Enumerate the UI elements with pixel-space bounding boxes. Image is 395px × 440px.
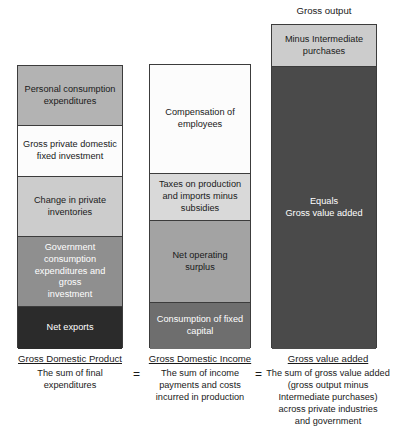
bar-segment: Change in privateinventories	[18, 177, 122, 237]
bar-segment: Net operatingsurplus	[150, 221, 250, 303]
bar-segment: Consumption of fixedcapital	[150, 303, 250, 349]
bar-segment-label: EqualsGross value added	[285, 196, 362, 220]
column-gross-domestic-product: Personal consumptionexpendituresGross pr…	[17, 65, 123, 348]
bar-segment-label: Consumption of fixedcapital	[157, 314, 243, 338]
bar-segment: Gross private domesticfixed investment	[18, 126, 122, 177]
caption-gross-domestic-income: Gross Domestic Income The sum of incomep…	[140, 353, 260, 404]
bar-segment-label: Taxes on productionand imports minussubs…	[159, 179, 241, 214]
bar-segment-label: Net operatingsurplus	[172, 250, 227, 274]
bar-segment: Net exports	[18, 307, 122, 349]
bar-segment: Taxes on productionand imports minussubs…	[150, 174, 250, 221]
bar-segment: EqualsGross value added	[272, 67, 376, 349]
caption-gross-value-added: Gross value added The sum of gross value…	[262, 353, 394, 428]
column-gross-domestic-income: Compensation ofemployeesTaxes on product…	[149, 64, 251, 348]
bar-segment-label: Governmentconsumptionexpenditures and gr…	[23, 242, 117, 301]
caption-body: The sum of incomepayments and costsincur…	[140, 368, 260, 404]
column-gross-value-added: Minus IntermediatepurchasesEqualsGross v…	[271, 24, 377, 348]
bar-segment-label: Gross private domesticfixed investment	[23, 139, 117, 163]
bar-segment: Governmentconsumptionexpenditures and gr…	[18, 237, 122, 307]
caption-title: Gross value added	[262, 353, 394, 365]
bar-segment: Compensation ofemployees	[150, 65, 250, 174]
gross-output-label: Gross output	[271, 5, 377, 16]
bar-segment: Minus Intermediatepurchases	[272, 25, 376, 67]
caption-body: The sum of finalexpenditures	[5, 368, 135, 392]
bar-segment-label: Personal consumptionexpenditures	[25, 84, 116, 108]
bar-segment-label: Minus Intermediatepurchases	[285, 34, 363, 58]
gdp-composition-diagram: Gross output Personal consumptionexpendi…	[0, 0, 395, 440]
bar-segment-label: Net exports	[47, 322, 94, 334]
caption-title: Gross Domestic Income	[140, 353, 260, 365]
gross-output-label-text: Gross output	[297, 5, 352, 16]
bar-segment-label: Change in privateinventories	[34, 195, 106, 219]
bar-segment: Personal consumptionexpenditures	[18, 66, 122, 126]
bar-segment-label: Compensation ofemployees	[165, 107, 234, 131]
caption-title: Gross Domestic Product	[5, 353, 135, 365]
caption-body: The sum of gross value added(gross outpu…	[262, 368, 394, 428]
caption-gross-domestic-product: Gross Domestic Product The sum of finale…	[5, 353, 135, 392]
